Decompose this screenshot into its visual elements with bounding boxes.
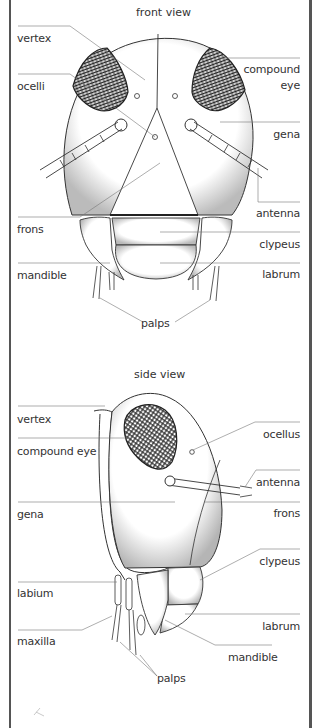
front-label-clypeus: clypeus [259,238,300,251]
front-label-antenna: antenna [256,207,300,220]
side-label-gena: gena [17,508,44,521]
side-label-labium: labium [17,587,53,600]
side-label-frons: frons [273,507,300,520]
front-label-ocelli: ocelli [17,80,45,93]
side-label-maxilla: maxilla [17,635,55,648]
side-label-antenna: antenna [256,476,300,489]
side-view-title: side view [134,368,185,381]
side-label-ocellus: ocellus [263,428,300,441]
front-label-mandible: mandible [17,269,67,282]
side-label-labrum: labrum [262,620,300,633]
side-label-compound-eye: compound eye [17,445,96,458]
side-label-palps: palps [157,672,186,685]
front-label-vertex: vertex [17,32,51,45]
side-label-clypeus: clypeus [259,555,300,568]
front-label-frons: frons [17,223,44,236]
front-label-labrum: labrum [262,268,300,281]
side-view-drawing [18,393,300,716]
insect-head-illustration [0,0,323,728]
front-label-compound-eye-line2: eye [281,79,300,92]
side-label-mandible: mandible [228,651,278,664]
front-label-gena: gena [273,128,300,141]
front-view-title: front view [136,6,191,19]
side-label-vertex: vertex [17,413,51,426]
front-label-compound-eye-line1: compound [243,63,300,76]
front-label-palps: palps [141,317,170,330]
